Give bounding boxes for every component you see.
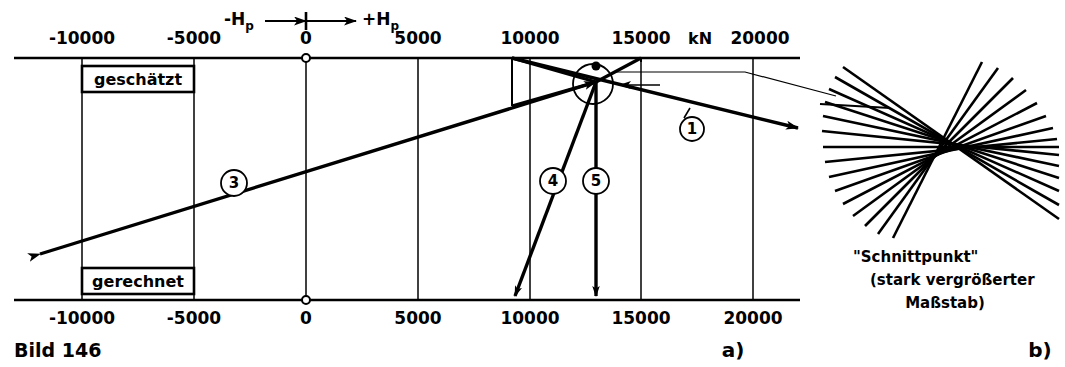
data-line-wedge-upper: [512, 58, 596, 82]
fan-lines: [822, 62, 1059, 238]
axis-labels-bottom: -10000 -5000 0 5000 10000 15000 20000: [49, 308, 783, 328]
callout-5-label: 5: [591, 172, 601, 190]
figure-bild-146: -Hp +Hp -10000 -5000 0 5000 10000 15000 …: [0, 0, 1065, 367]
axis-tick-label-top-0: -10000: [49, 28, 115, 48]
axis-unit-label: kN: [688, 29, 712, 48]
panel-a-label: a): [722, 338, 745, 362]
panel-b: "Schnittpunkt" (stark vergrößerter Maßst…: [820, 62, 1059, 362]
callout-3-label: 3: [229, 174, 239, 192]
axis-labels-top: -10000 -5000 0 5000 10000 15000 kN 20000: [49, 28, 790, 48]
panel-b-label: b): [1028, 338, 1051, 362]
callout-4: 4: [540, 168, 566, 194]
axis-tick-label-bottom-0: -10000: [49, 308, 115, 328]
detail-caption: "Schnittpunkt" (stark vergrößerter Maßst…: [853, 248, 1035, 312]
axis-tick-label-bottom-4: 10000: [500, 308, 559, 328]
data-line-wedge-right: [596, 58, 641, 82]
figure-canvas: -Hp +Hp -10000 -5000 0 5000 10000 15000 …: [0, 0, 1065, 367]
intersection-node: [592, 62, 601, 71]
gridlines: [82, 58, 753, 300]
panel-a: -Hp +Hp -10000 -5000 0 5000 10000 15000 …: [14, 9, 836, 362]
detail-caption-line-2: (stark vergrößerter: [870, 271, 1035, 289]
hp-negative-label: -Hp: [224, 9, 254, 33]
axis-tick-label-top-5: 15000: [611, 28, 670, 48]
callout-3: 3: [221, 170, 247, 196]
box-label-gerechnet: gerechnet: [92, 272, 184, 291]
callout-4-label: 4: [548, 172, 558, 190]
box-label-geschaetzt: geschätzt: [94, 70, 182, 89]
zero-marker-top: [302, 54, 310, 62]
annotation-box-gerechnet: gerechnet: [82, 268, 194, 294]
axis-tick-label-top-4: 10000: [500, 28, 559, 48]
zero-marker-bottom: [302, 296, 310, 304]
annotation-box-geschaetzt: geschätzt: [82, 66, 194, 92]
detail-caption-line-1: "Schnittpunkt": [853, 248, 978, 266]
callout-1-label: 1: [687, 120, 697, 138]
axis-tick-label-top-6: 20000: [730, 28, 789, 48]
axis-tick-label-bottom-2: 0: [300, 308, 312, 328]
detail-caption-line-3: Maßstab): [905, 294, 985, 312]
axis-tick-label-bottom-1: -5000: [167, 308, 222, 328]
fan-stub-line: [820, 104, 890, 108]
data-line-3: [40, 82, 596, 254]
axis-tick-label-bottom-3: 5000: [394, 308, 441, 328]
axis-tick-label-bottom-6: 20000: [723, 308, 782, 328]
callout-1: 1: [680, 108, 704, 141]
axis-tick-label-top-1: -5000: [167, 28, 222, 48]
callout-5: 5: [583, 168, 609, 194]
axis-tick-label-bottom-5: 15000: [611, 308, 670, 328]
axis-tick-label-top-2: 0: [300, 28, 312, 48]
figure-caption: Bild 146: [14, 339, 101, 361]
axis-tick-label-top-3: 5000: [394, 28, 441, 48]
